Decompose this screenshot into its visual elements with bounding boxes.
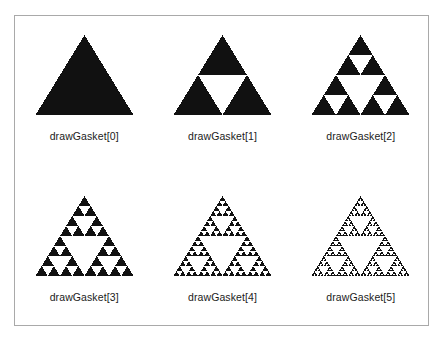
figure-frame-border: drawGasket[0] drawGasket[1] drawGasket[2… xyxy=(14,15,429,326)
gasket-triangle-figure xyxy=(34,34,135,116)
gasket-caption: drawGasket[1] xyxy=(188,131,257,142)
gasket-triangle-figure xyxy=(172,195,273,277)
gasket-caption: drawGasket[5] xyxy=(326,292,395,303)
gasket-triangle-figure xyxy=(172,34,273,116)
gasket-panel: drawGasket[4] xyxy=(153,172,291,328)
gasket-panel: drawGasket[1] xyxy=(153,16,291,172)
gasket-caption: drawGasket[3] xyxy=(50,292,119,303)
gasket-panel: drawGasket[3] xyxy=(15,172,153,328)
figure-root: drawGasket[0] drawGasket[1] drawGasket[2… xyxy=(0,0,445,342)
gasket-panel: drawGasket[5] xyxy=(292,172,430,328)
gasket-caption: drawGasket[4] xyxy=(188,292,257,303)
gasket-grid: drawGasket[0] drawGasket[1] drawGasket[2… xyxy=(15,16,430,327)
gasket-triangle-figure xyxy=(310,34,411,116)
gasket-caption: drawGasket[0] xyxy=(50,131,119,142)
gasket-triangle-figure xyxy=(34,195,135,277)
gasket-caption: drawGasket[2] xyxy=(326,131,395,142)
gasket-panel: drawGasket[2] xyxy=(292,16,430,172)
gasket-triangle-figure xyxy=(310,195,411,277)
gasket-panel: drawGasket[0] xyxy=(15,16,153,172)
